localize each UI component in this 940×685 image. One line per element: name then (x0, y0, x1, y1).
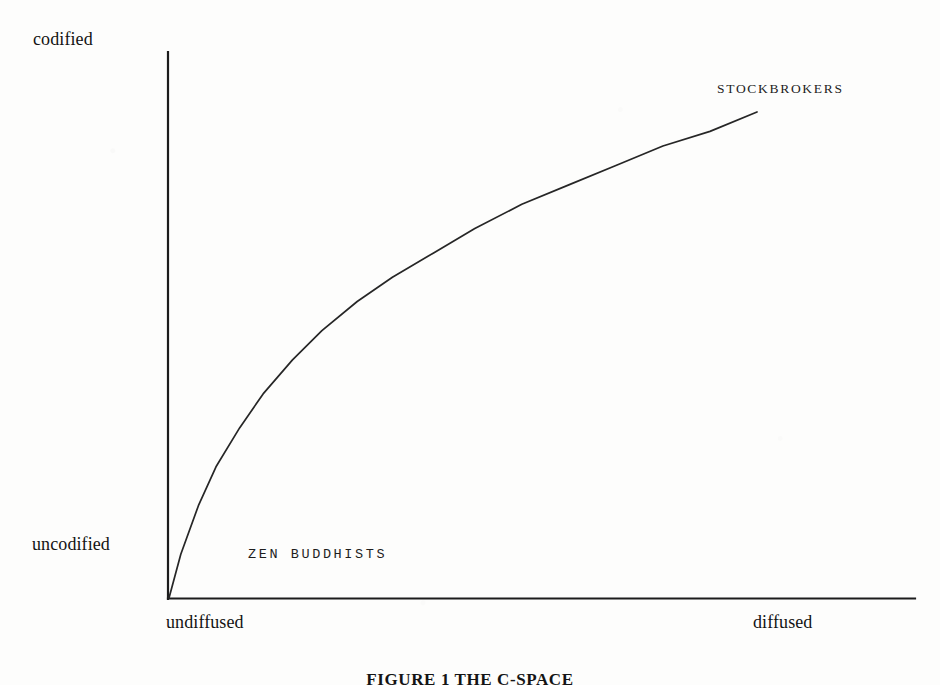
figure-caption: FIGURE 1 THE C-SPACE (0, 670, 940, 685)
chart-plot-area (0, 0, 940, 685)
axis-label-undiffused: undiffused (166, 612, 244, 633)
figure-c-space: codified uncodified undiffused diffused … (0, 0, 940, 685)
codification-diffusion-curve (169, 112, 757, 598)
annotation-zen-buddhists: ZEN BUDDHISTS (248, 547, 387, 562)
axis-label-diffused: diffused (753, 612, 812, 633)
axis-label-uncodified: uncodified (32, 534, 110, 555)
annotation-stockbrokers: STOCKBROKERS (717, 81, 844, 97)
axis-label-codified: codified (33, 29, 93, 50)
